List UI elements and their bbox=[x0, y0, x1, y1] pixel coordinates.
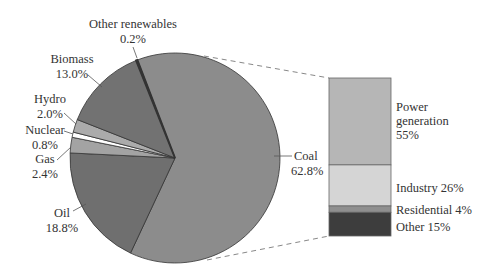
label-power-generation-line1: Power bbox=[396, 100, 429, 114]
label-value: 62.8% bbox=[291, 164, 323, 178]
label-nuclear: Nuclear 0.8% bbox=[25, 123, 73, 152]
label-value: 2.4% bbox=[32, 167, 58, 181]
label-name: Hydro bbox=[34, 92, 66, 106]
label-other-renewables: Other renewables 0.2% bbox=[89, 17, 177, 58]
label-name: Nuclear bbox=[25, 123, 65, 137]
label-name: Oil bbox=[54, 206, 71, 220]
coal-consumption-pie-of-bar-chart: Other renewables 0.2% Biomass 13.0% Hydr… bbox=[0, 0, 489, 273]
label-value: 0.8% bbox=[32, 138, 58, 152]
label-oil: Oil 18.8% bbox=[46, 204, 86, 235]
label-value: 2.0% bbox=[37, 107, 63, 121]
label-gas: Gas 2.4% bbox=[32, 147, 71, 181]
label-other: Other 15% bbox=[396, 220, 451, 234]
label-value: 18.8% bbox=[46, 221, 78, 235]
leader-line bbox=[64, 131, 73, 134]
leader-line bbox=[57, 147, 71, 160]
label-residential: Residential 4% bbox=[396, 203, 472, 217]
label-value: 13.0% bbox=[56, 67, 88, 81]
bar-segment-power-generation bbox=[329, 78, 391, 165]
label-name: Biomass bbox=[50, 52, 93, 66]
bar-segment-industry bbox=[329, 165, 391, 206]
label-name: Other renewables bbox=[89, 17, 177, 31]
leader-line bbox=[64, 113, 76, 124]
label-power-generation-line2: generation bbox=[396, 114, 450, 128]
leader-line bbox=[133, 47, 137, 58]
coal-usage-stacked-bar bbox=[329, 78, 391, 236]
label-name: Gas bbox=[35, 152, 55, 166]
label-power-generation-value: 55% bbox=[396, 128, 419, 142]
leader-line bbox=[88, 75, 102, 87]
bar-labels: Power generation 55% Industry 26% Reside… bbox=[396, 100, 472, 234]
bar-segment-residential bbox=[329, 206, 391, 212]
label-value: 0.2% bbox=[120, 32, 146, 46]
label-biomass: Biomass 13.0% bbox=[50, 52, 102, 87]
label-hydro: Hydro 2.0% bbox=[34, 92, 76, 124]
label-coal: Coal 62.8% bbox=[274, 149, 323, 178]
bar-segment-other bbox=[329, 212, 391, 236]
energy-source-pie bbox=[70, 53, 280, 263]
label-industry: Industry 26% bbox=[396, 181, 464, 195]
label-name: Coal bbox=[294, 149, 318, 163]
